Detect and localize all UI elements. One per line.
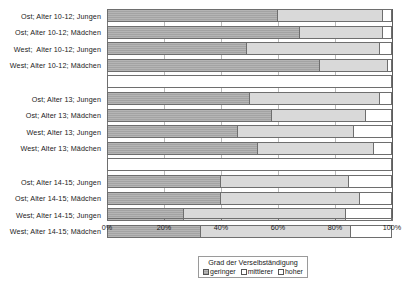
x-tick-label: 20% (144, 223, 184, 232)
legend-item-label: geringer (210, 268, 236, 275)
legend-items: geringermittlererhoher (203, 268, 303, 275)
bar-segment-mid (247, 43, 380, 54)
x-tick-0 (107, 218, 108, 221)
bar-segment-high (383, 10, 391, 21)
plot-area (107, 9, 392, 218)
x-tick-label: 100% (372, 223, 412, 232)
bar-row (107, 142, 392, 155)
category-label: Ost; Alter 14-15; Mädchen (0, 194, 101, 203)
bar-segment-high (388, 60, 391, 71)
x-axis-line (107, 218, 393, 219)
bar-segment-mid (258, 143, 374, 154)
x-tick-label: 40% (201, 223, 241, 232)
category-label: Ost; Alter 14-15; Jungen (0, 178, 101, 187)
bar-row (107, 175, 392, 188)
bar-segment-low (108, 27, 300, 38)
bar-row (107, 9, 392, 22)
bar-segment-high (366, 110, 391, 121)
bar-segment-high (354, 126, 391, 137)
legend-item-label: mittlerer (248, 268, 273, 275)
bar-segment-low (108, 176, 221, 187)
x-tick-label: 80% (315, 223, 355, 232)
bar-segment-high (360, 193, 391, 204)
bar-segment-low (108, 60, 320, 71)
category-label: West; Alter 14-15; Mädchen (0, 227, 101, 236)
group-spacer-row (107, 158, 392, 171)
category-label: West; Alter 13; Jungen (0, 128, 101, 137)
legend: Grad der Verselbständigung geringermittl… (198, 256, 308, 278)
category-label: West; Alter 13; Mädchen (0, 144, 101, 153)
legend-item: mittlerer (241, 268, 273, 275)
bar-segment-low (108, 143, 258, 154)
category-label: Ost; Alter 13; Mädchen (0, 111, 101, 120)
x-tick-100 (392, 218, 393, 221)
bar-segment-low (108, 10, 278, 21)
bar-row (107, 59, 392, 72)
category-label: Ost; Alter 13; Jungen (0, 95, 101, 104)
bar-segment-high (374, 143, 391, 154)
legend-title: Grad der Verselbständigung (203, 258, 303, 268)
bar-segment-mid (300, 27, 382, 38)
category-label: West; Alter 10-12; Jungen (0, 45, 101, 54)
bar-segment-mid (320, 60, 388, 71)
bar-segment-low (108, 93, 250, 104)
x-tick-80 (335, 218, 336, 221)
bar-segment-low (108, 43, 247, 54)
bar-row (107, 92, 392, 105)
stacked-bar-chart: Ost; Alter 10-12; JungenOst; Alter 10-12… (0, 0, 415, 281)
x-tick-40 (221, 218, 222, 221)
x-tick-label: 0% (87, 223, 127, 232)
high-swatch (278, 269, 284, 275)
bar-row (107, 208, 392, 221)
bar-segment-mid (272, 110, 365, 121)
group-spacer-row (107, 75, 392, 88)
legend-item-label: hoher (285, 268, 303, 275)
x-tick-20 (164, 218, 165, 221)
x-tick-60 (278, 218, 279, 221)
bar-segment-mid (221, 176, 348, 187)
bar-segment-high (380, 43, 391, 54)
bar-row (107, 26, 392, 39)
bar-row (107, 109, 392, 122)
category-label: Ost; Alter 10-12; Mädchen (0, 28, 101, 37)
bar-segment-high (380, 93, 391, 104)
bar-segment-high (383, 27, 391, 38)
bar-segment-high (349, 176, 391, 187)
bar-segment-low (108, 110, 272, 121)
bar-row (107, 192, 392, 205)
bar-segment-mid (238, 126, 354, 137)
low-swatch (203, 269, 209, 275)
x-tick-label: 60% (258, 223, 298, 232)
bar-row (107, 42, 392, 55)
bar-segment-low (108, 126, 238, 137)
bar-segment-mid (221, 193, 360, 204)
category-label: West; Alter 14-15; Jungen (0, 211, 101, 220)
legend-item: hoher (278, 268, 303, 275)
mid-swatch (241, 269, 247, 275)
gridline-100 (392, 9, 393, 218)
bar-segment-low (108, 193, 221, 204)
category-label: Ost; Alter 10-12; Jungen (0, 12, 101, 21)
bar-row (107, 125, 392, 138)
bar-segment-mid (278, 10, 383, 21)
category-label: West; Alter 10-12; Mädchen (0, 61, 101, 70)
bar-segment-mid (250, 93, 380, 104)
legend-item: geringer (203, 268, 236, 275)
